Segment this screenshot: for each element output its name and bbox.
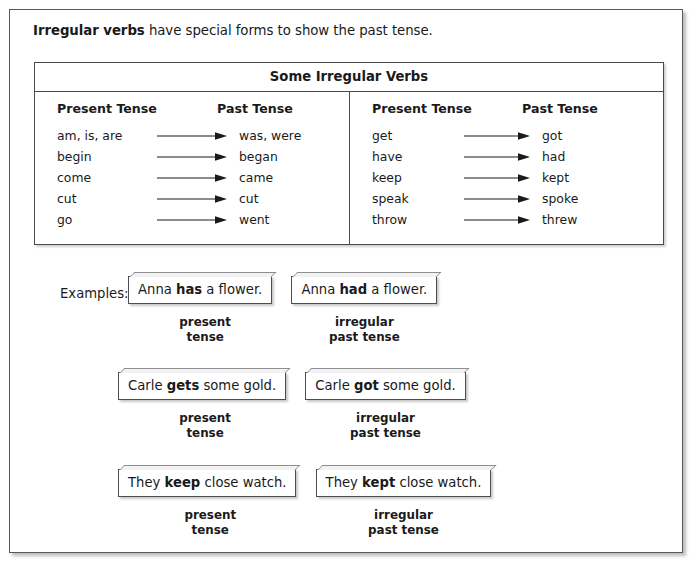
verb-present: throw	[372, 212, 464, 227]
sentence-verb-bold: has	[176, 282, 202, 297]
example-present-pair: Anna has a flower. present tense	[128, 276, 272, 345]
example-past-pair: Carle got some gold. irregular past tens…	[305, 372, 465, 441]
header-present-tense-right: Present Tense	[372, 101, 522, 116]
caption-line-1: present	[124, 508, 296, 523]
sentence-verb-bold: gets	[167, 378, 200, 393]
sentence-box-present: They keep close watch.	[118, 469, 296, 497]
table-half-left: Present Tense Past Tense am, is, are was…	[35, 92, 349, 244]
verb-present: go	[57, 212, 157, 227]
verb-past: got	[542, 128, 562, 143]
verb-row: begin began	[57, 146, 349, 167]
table-body: Present Tense Past Tense am, is, are was…	[35, 92, 663, 244]
verb-present: have	[372, 149, 464, 164]
caption-past: irregular past tense	[316, 508, 492, 538]
caption-past: irregular past tense	[291, 315, 437, 345]
right-arrow-icon	[157, 215, 229, 225]
verb-past: was, were	[239, 128, 301, 143]
verb-past: kept	[542, 170, 569, 185]
sentence-box-present: Carle gets some gold.	[118, 372, 286, 400]
caption-present: present tense	[118, 411, 286, 441]
caption-line-1: present	[124, 411, 286, 426]
header-past-tense-right: Past Tense	[522, 101, 652, 116]
example-row: They keep close watch. present tense The…	[118, 469, 491, 538]
irregular-verbs-table: Some Irregular Verbs Present Tense Past …	[34, 62, 664, 245]
verb-row: keep kept	[372, 167, 663, 188]
sentence-verb-bold: kept	[362, 475, 395, 490]
verb-past: cut	[239, 191, 259, 206]
verb-row: come came	[57, 167, 349, 188]
header-past-tense-left: Past Tense	[217, 101, 347, 116]
caption-line-1: irregular	[316, 508, 492, 523]
verb-row: go went	[57, 209, 349, 230]
intro-sentence: Irregular verbs have special forms to sh…	[33, 23, 433, 38]
right-arrow-icon	[157, 131, 229, 141]
right-arrow-icon	[464, 215, 532, 225]
example-row: Anna has a flower. present tense Anna ha…	[128, 276, 437, 345]
sentence-verb-bold: had	[339, 282, 367, 297]
caption-line-2: tense	[124, 426, 286, 441]
caption-line-2: tense	[138, 330, 272, 345]
sentence-verb-bold: keep	[165, 475, 201, 490]
table-title: Some Irregular Verbs	[35, 63, 663, 92]
sentence-text-after: a flower.	[202, 282, 262, 297]
example-past-pair: Anna had a flower. irregular past tense	[291, 276, 437, 345]
verb-present: cut	[57, 191, 157, 206]
verb-past: had	[542, 149, 565, 164]
verb-present: am, is, are	[57, 128, 157, 143]
sentence-text-before: Carle	[315, 378, 354, 393]
table-half-right: Present Tense Past Tense get got have ha…	[349, 92, 663, 244]
verb-past: came	[239, 170, 273, 185]
right-arrow-icon	[157, 173, 229, 183]
caption-line-1: present	[138, 315, 272, 330]
worksheet-page: Irregular verbs have special forms to sh…	[9, 9, 683, 553]
sentence-box-past: Anna had a flower.	[291, 276, 437, 304]
caption-line-2: past tense	[291, 330, 437, 345]
right-arrow-icon	[464, 131, 532, 141]
examples-label: Examples:	[60, 286, 129, 301]
verb-present: come	[57, 170, 157, 185]
sentence-text-before: They	[128, 475, 165, 490]
intro-rest-text: have special forms to show the past tens…	[145, 23, 433, 38]
caption-line-1: irregular	[291, 315, 437, 330]
sentence-text-after: some gold.	[379, 378, 456, 393]
verb-past: began	[239, 149, 278, 164]
verb-present: keep	[372, 170, 464, 185]
column-headers-right: Present Tense Past Tense	[372, 101, 663, 116]
sentence-verb-bold: got	[354, 378, 379, 393]
right-arrow-icon	[464, 173, 532, 183]
sentence-text-before: They	[326, 475, 363, 490]
sentence-text-before: Anna	[301, 282, 339, 297]
verb-row: have had	[372, 146, 663, 167]
right-arrow-icon	[464, 194, 532, 204]
verb-row: am, is, are was, were	[57, 125, 349, 146]
verb-present: begin	[57, 149, 157, 164]
caption-line-2: past tense	[305, 426, 465, 441]
caption-present: present tense	[118, 508, 296, 538]
caption-past: irregular past tense	[305, 411, 465, 441]
caption-line-1: irregular	[305, 411, 465, 426]
sentence-box-past: They kept close watch.	[316, 469, 492, 497]
sentence-text-after: a flower.	[367, 282, 427, 297]
header-present-tense-left: Present Tense	[57, 101, 217, 116]
sentence-text-after: close watch.	[395, 475, 481, 490]
sentence-text-before: Carle	[128, 378, 167, 393]
verb-past: spoke	[542, 191, 578, 206]
verb-past: went	[239, 212, 269, 227]
example-present-pair: They keep close watch. present tense	[118, 469, 296, 538]
right-arrow-icon	[157, 194, 229, 204]
column-headers-left: Present Tense Past Tense	[57, 101, 349, 116]
intro-lead-term: Irregular verbs	[33, 23, 145, 38]
example-row: Carle gets some gold. present tense Carl…	[118, 372, 466, 441]
sentence-text-before: Anna	[138, 282, 176, 297]
verb-past: threw	[542, 212, 577, 227]
sentence-text-after: some gold.	[199, 378, 276, 393]
sentence-box-present: Anna has a flower.	[128, 276, 272, 304]
caption-present: present tense	[128, 315, 272, 345]
example-present-pair: Carle gets some gold. present tense	[118, 372, 286, 441]
sentence-text-after: close watch.	[200, 475, 286, 490]
right-arrow-icon	[157, 152, 229, 162]
verb-present: speak	[372, 191, 464, 206]
verb-present: get	[372, 128, 464, 143]
sentence-box-past: Carle got some gold.	[305, 372, 465, 400]
caption-line-2: past tense	[316, 523, 492, 538]
